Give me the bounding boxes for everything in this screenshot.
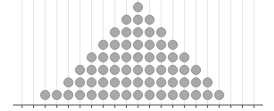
data-dot [110,78,119,87]
data-dot [215,90,224,99]
data-dot [75,90,84,99]
data-dot [180,78,189,87]
data-dot [157,65,166,74]
data-dot [64,78,73,87]
data-dot [168,78,177,87]
data-dot [75,65,84,74]
data-dot [145,28,154,37]
data-dot [122,90,131,99]
data-dot [87,53,96,62]
data-dot [87,78,96,87]
data-dot [180,53,189,62]
data-dot [157,53,166,62]
data-dot [99,90,108,99]
data-dot [99,53,108,62]
data-dot [145,53,154,62]
data-dot [203,78,212,87]
data-dot [191,78,200,87]
data-dot [191,65,200,74]
x-axis [13,105,263,108]
data-dot [110,40,119,49]
data-dot [122,78,131,87]
data-dot [122,53,131,62]
data-dot [133,78,142,87]
data-dot [145,15,154,24]
data-dot [168,53,177,62]
data-dot [110,65,119,74]
data-dot [145,65,154,74]
data-dot [133,15,142,24]
data-dot [41,90,50,99]
data-dot [145,78,154,87]
data-dot [99,78,108,87]
data-dot [75,78,84,87]
data-dot [133,40,142,49]
data-dot [87,65,96,74]
data-dot [110,53,119,62]
data-dot [133,28,142,37]
data-dot [145,90,154,99]
data-dot [145,40,154,49]
data-dot [110,90,119,99]
data-dot [133,53,142,62]
data-dot [168,90,177,99]
data-dot [157,40,166,49]
data-dot [110,28,119,37]
data-dot [133,3,142,12]
data-dot [133,65,142,74]
data-dot [168,40,177,49]
data-dot [122,15,131,24]
data-dot [133,90,142,99]
data-dot [87,90,96,99]
data-dot [99,40,108,49]
data-dot [180,65,189,74]
data-dot [168,65,177,74]
data-dot [157,90,166,99]
data-dot [122,28,131,37]
data-dot [157,28,166,37]
data-dot [191,90,200,99]
data-dot [52,90,61,99]
data-dot [203,90,212,99]
data-dot [157,78,166,87]
data-dot [180,90,189,99]
data-dot [122,65,131,74]
dot-plot-chart [0,0,274,111]
data-dot [64,90,73,99]
data-dot [99,65,108,74]
data-dot [122,40,131,49]
